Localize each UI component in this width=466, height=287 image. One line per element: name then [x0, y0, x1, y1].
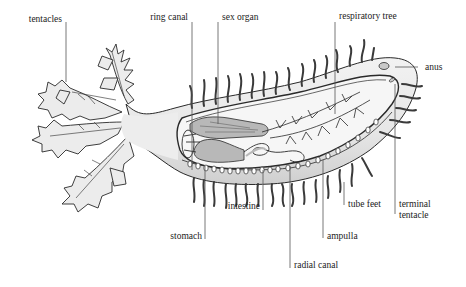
- label-anus: anus: [425, 62, 442, 73]
- label-ring-canal: ring canal: [140, 12, 188, 23]
- label-respiratory-tree: respiratory tree: [339, 11, 397, 22]
- sea-cucumber-illustration: [0, 0, 466, 287]
- label-tentacles: tentacles: [24, 14, 62, 25]
- label-terminal-tentacle-line1: terminal: [399, 199, 431, 210]
- label-stomach: stomach: [160, 231, 202, 242]
- diagram-canvas: tentacles ring canal sex organ respirato…: [0, 0, 466, 287]
- label-intestine: intestine: [210, 201, 260, 212]
- label-ampulla: ampulla: [327, 231, 358, 242]
- label-radial-canal: radial canal: [294, 260, 338, 271]
- label-terminal-tentacle-line2: tentacle: [399, 210, 429, 221]
- label-sex-organ: sex organ: [222, 12, 259, 23]
- anus: [379, 63, 389, 70]
- label-tube-feet: tube feet: [348, 199, 381, 210]
